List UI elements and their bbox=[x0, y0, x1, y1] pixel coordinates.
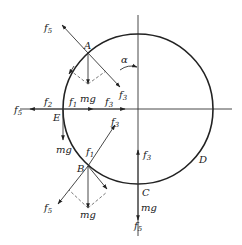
label-f5-E: f5 bbox=[13, 104, 23, 117]
label-f3-C: f3 bbox=[142, 149, 152, 162]
point-label-E: E bbox=[52, 112, 61, 123]
forces-at-B bbox=[58, 125, 115, 208]
point-label-A: A bbox=[83, 40, 91, 51]
point-label-C: C bbox=[142, 187, 150, 198]
label-f1-E: f1 bbox=[68, 96, 77, 109]
label-f5-B: f5 bbox=[43, 202, 53, 215]
point-label-D: D bbox=[198, 154, 207, 165]
force-diagram: A α f5 f3 mg E f5 f2 f1 f3 mg B f3 f1 f5… bbox=[0, 0, 242, 245]
label-mg-C: mg bbox=[141, 202, 157, 213]
alpha-label: α bbox=[121, 54, 128, 65]
label-f3-B: f3 bbox=[110, 116, 120, 129]
label-mg-B: mg bbox=[80, 209, 96, 220]
label-f5-A: f5 bbox=[43, 22, 53, 35]
label-mg-E: mg bbox=[56, 144, 72, 155]
label-mg-A: mg bbox=[80, 93, 96, 104]
label-f3-E: f3 bbox=[104, 96, 114, 109]
label-f2-E: f2 bbox=[43, 96, 53, 109]
point-label-B: B bbox=[76, 163, 84, 174]
label-f1-B: f1 bbox=[85, 146, 94, 159]
label-f3-A: f3 bbox=[118, 89, 128, 102]
